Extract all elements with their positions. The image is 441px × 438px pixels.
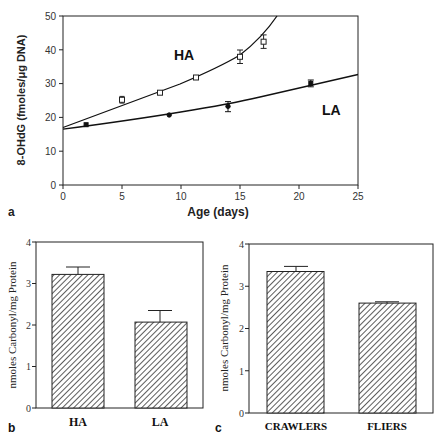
ha-points: [120, 35, 267, 103]
bar-crawlers: [267, 272, 324, 414]
chart-a-frame: [63, 16, 358, 185]
chart-c-ylabel: nmoles Carbonyl/mg Protein: [218, 264, 230, 392]
ha-annotation: HA: [174, 47, 194, 63]
chart-a-y-axis: [59, 16, 63, 185]
chart-a: 0 10 20 30 40 50 0 5 10 15 20 25 Age (da…: [8, 11, 364, 219]
bar-ha: [52, 274, 104, 408]
chart-a-ytick: 50: [45, 11, 57, 22]
panel-label-b: b: [8, 421, 15, 435]
panel-label-c: c: [215, 421, 222, 435]
chart-a-ytick: 40: [45, 45, 57, 56]
chart-b-category: HA: [69, 415, 87, 429]
chart-a-xtick: 25: [352, 191, 364, 202]
chart-c-ytick: 4: [239, 239, 244, 250]
chart-b-ytick: 4: [26, 237, 31, 248]
chart-b-ytick: 2: [26, 320, 31, 331]
ha-fit-curve: [63, 16, 277, 128]
chart-b: 0 1 2 3 4 HA LA nmoles Carbonyl/mg Prote…: [6, 237, 203, 435]
la-points: [84, 80, 314, 127]
chart-a-ytick: 0: [50, 180, 56, 191]
chart-c-category: FLIERS: [367, 420, 407, 432]
chart-b-ytick: 3: [26, 278, 31, 289]
la-fit-curve: [63, 75, 358, 130]
bar-la: [135, 322, 187, 408]
bar-fliers: [359, 303, 416, 413]
chart-a-ytick: 20: [45, 112, 57, 123]
chart-c-category: CRAWLERS: [265, 420, 327, 432]
chart-a-xtick: 10: [175, 191, 187, 202]
la-annotation: LA: [322, 102, 341, 118]
chart-a-xtick: 15: [234, 191, 246, 202]
chart-a-xtick: 0: [60, 191, 66, 202]
chart-b-category: LA: [152, 415, 169, 429]
chart-b-ylabel: nmoles Carbonyl/mg Protein: [6, 261, 18, 389]
chart-b-ytick: 0: [26, 403, 31, 414]
chart-c-ytick: 1: [239, 366, 244, 377]
chart-a-ylabel: 8-OHdG (fmoles/μg DNA): [15, 34, 27, 165]
figure: 0 10 20 30 40 50 0 5 10 15 20 25 Age (da…: [0, 0, 441, 438]
chart-c-ytick: 0: [239, 408, 244, 419]
chart-b-ytick: 1: [26, 361, 31, 372]
chart-a-xtick: 20: [293, 191, 305, 202]
chart-a-xlabel: Age (days): [187, 205, 248, 219]
chart-c-ytick: 3: [239, 281, 244, 292]
chart-a-ytick: 30: [45, 78, 57, 89]
chart-a-ytick: 10: [45, 146, 57, 157]
panel-label-a: a: [8, 205, 15, 219]
chart-c: 0 1 2 3 4 CRAWLERS FLIERS nmoles Carbony…: [215, 239, 433, 435]
chart-a-x-axis: [63, 185, 358, 189]
chart-a-xtick: 5: [119, 191, 125, 202]
chart-c-ytick: 2: [239, 323, 244, 334]
